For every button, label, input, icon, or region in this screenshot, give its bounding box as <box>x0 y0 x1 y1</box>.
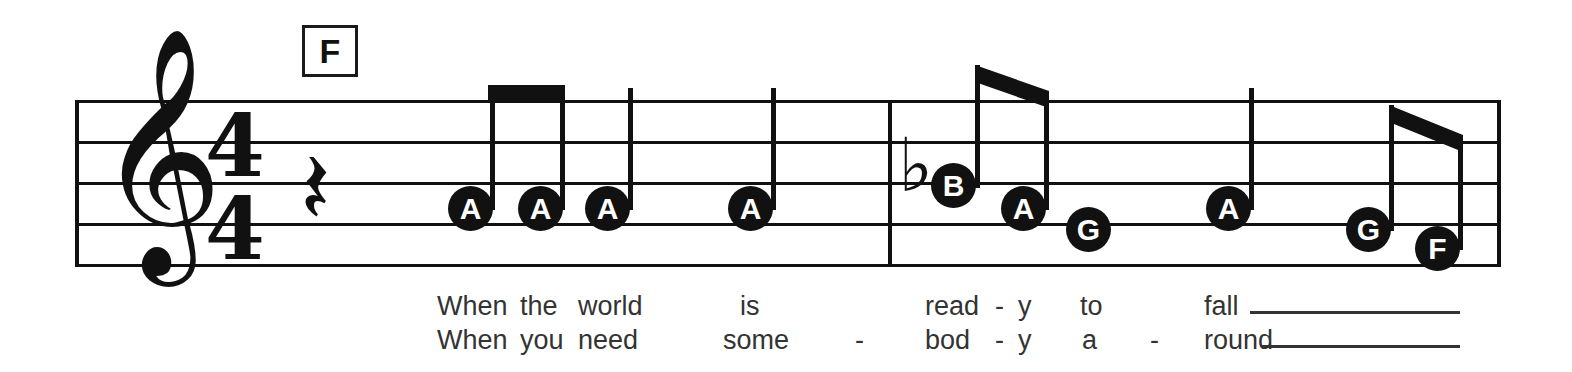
chord-symbol-f[interactable]: F <box>302 25 358 77</box>
note-head[interactable]: B <box>931 163 976 208</box>
lyric-syllable: read <box>925 291 979 322</box>
note-letter: F <box>1428 232 1446 266</box>
note-head[interactable]: A <box>1206 186 1251 231</box>
lyric-syllable: is <box>740 291 760 322</box>
note-head[interactable]: A <box>585 186 630 231</box>
lyric-syllable: bod <box>925 325 970 356</box>
chord-symbol-label: F <box>320 32 341 71</box>
melisma-line <box>1250 311 1460 314</box>
melisma-line <box>1262 345 1460 348</box>
note-letter: B <box>943 169 965 203</box>
lyric-hyphen: - <box>1150 325 1159 356</box>
beam <box>970 60 1060 110</box>
note-letter: G <box>1357 213 1380 247</box>
treble-clef-icon: 𝄞 <box>96 42 223 257</box>
lyric-syllable: a <box>1082 325 1097 356</box>
lyric-syllable: to <box>1080 291 1103 322</box>
lyric-syllable: you <box>520 325 564 356</box>
lyric-syllable: When <box>437 325 508 356</box>
lyric-syllable: the <box>520 291 558 322</box>
note-stem <box>1249 88 1254 210</box>
lyric-syllable: some <box>723 325 789 356</box>
staff-line-3 <box>75 182 1500 185</box>
note-stem <box>490 85 495 210</box>
lyric-syllable: need <box>578 325 638 356</box>
note-letter: A <box>597 192 619 226</box>
note-stem <box>560 85 565 210</box>
note-letter: G <box>1077 213 1100 247</box>
time-signature-numerator: 4 <box>205 103 265 189</box>
barline-start <box>75 100 79 267</box>
note-head[interactable]: A <box>518 186 563 231</box>
barline-end <box>1497 100 1501 267</box>
quarter-rest-icon: 𝄽 <box>300 139 331 239</box>
note-head[interactable]: A <box>1001 186 1046 231</box>
note-head[interactable]: A <box>448 186 493 231</box>
note-head[interactable]: A <box>728 186 773 231</box>
note-letter: A <box>1013 192 1035 226</box>
lyric-syllable: world <box>578 291 643 322</box>
time-signature-denominator: 4 <box>205 186 265 272</box>
beam <box>488 85 564 101</box>
lyric-hyphen: - <box>995 291 1004 322</box>
note-letter: A <box>460 192 482 226</box>
staff-line-2 <box>75 141 1500 144</box>
sheet-music-score: F 𝄞 4 4 𝄽 ♭ A A A A B A G <box>0 0 1572 372</box>
note-head[interactable]: F <box>1415 226 1460 271</box>
note-letter: A <box>530 192 552 226</box>
staff-line-5 <box>75 264 1500 267</box>
note-head[interactable]: G <box>1066 207 1111 252</box>
staff-line-4 <box>75 223 1500 226</box>
lyric-syllable: fall <box>1204 291 1239 322</box>
note-stem <box>771 88 776 210</box>
note-letter: A <box>740 192 762 226</box>
beam <box>1384 100 1474 155</box>
flat-icon: ♭ <box>898 128 933 202</box>
lyric-syllable: When <box>437 291 508 322</box>
note-head[interactable]: G <box>1346 207 1391 252</box>
staff-line-1 <box>75 100 1500 103</box>
note-letter: A <box>1218 192 1240 226</box>
lyric-syllable: round <box>1204 325 1273 356</box>
lyric-hyphen: - <box>995 325 1004 356</box>
lyric-syllable: y <box>1018 325 1032 356</box>
lyric-syllable: y <box>1018 291 1032 322</box>
barline-measure-1 <box>888 100 892 267</box>
note-stem <box>628 88 633 210</box>
lyric-hyphen: - <box>855 325 864 356</box>
